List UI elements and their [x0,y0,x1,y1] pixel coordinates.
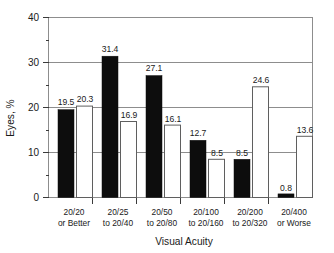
xtick-label-6-line2: or Worse [277,218,311,228]
bar-open-3 [165,125,181,197]
xtick-label-1-line1: 20/20 [64,207,85,217]
xtick-label-5-line1: 20/200 [237,207,263,217]
bar-value-filled-1: 19.5 [58,97,75,107]
bar-open-6 [297,136,313,197]
bar-group-6: 0.8 13.6 20/400 or Worse [277,125,313,228]
ytick-label-40: 40 [28,12,40,23]
x-axis-ticks [93,198,269,204]
xtick-label-4-line2: to 20/160 [189,218,224,228]
y-axis-title: Eyes, % [5,99,16,136]
bar-open-4 [209,159,225,197]
y-axis: 40 30 20 10 0 [28,12,49,203]
bar-value-filled-3: 27.1 [146,63,163,73]
bar-open-5 [253,87,269,198]
bar-chart: 40 30 20 10 0 Eyes, % 19.5 20.3 20/20 or… [0,0,334,253]
chart-svg: 40 30 20 10 0 Eyes, % 19.5 20.3 20/20 or… [0,0,334,253]
xtick-label-2-line2: to 20/40 [103,218,134,228]
bar-group-5: 8.5 24.6 20/200 to 20/320 [233,75,270,228]
ytick-label-20: 20 [28,102,40,113]
bar-value-filled-2: 31.4 [102,44,119,54]
bar-filled-1 [58,110,74,198]
xtick-label-3-line2: to 20/80 [147,218,178,228]
xtick-label-2-line1: 20/25 [108,207,129,217]
xtick-label-5-line2: to 20/320 [233,218,268,228]
bar-filled-5 [234,159,250,197]
bar-value-open-5: 24.6 [253,75,270,85]
bar-open-2 [121,122,137,198]
bar-value-open-2: 16.9 [121,110,138,120]
xtick-label-1-line2: or Better [58,218,90,228]
bar-value-open-4: 8.5 [211,148,223,158]
bar-value-open-3: 16.1 [165,114,182,124]
bar-value-filled-4: 12.7 [190,128,207,138]
bar-group-1: 19.5 20.3 20/20 or Better [58,94,94,228]
bar-value-filled-6: 0.8 [280,183,292,193]
bar-group-2: 31.4 16.9 20/25 to 20/40 [102,44,138,229]
ytick-label-30: 30 [28,57,40,68]
ytick-label-10: 10 [28,147,40,158]
xtick-label-6-line1: 20/400 [281,207,307,217]
bar-filled-3 [146,76,162,198]
bar-group-3: 27.1 16.1 20/50 to 20/80 [146,63,182,228]
bar-value-open-6: 13.6 [297,125,314,135]
xtick-label-3-line1: 20/50 [152,207,173,217]
bar-filled-2 [102,56,118,197]
bar-filled-6 [278,194,294,198]
bar-value-open-1: 20.3 [77,94,94,104]
ytick-label-0: 0 [33,192,39,203]
x-axis-title: Visual Acuity [155,236,213,247]
xtick-label-4-line1: 20/100 [193,207,219,217]
bar-open-1 [77,106,93,197]
bar-filled-4 [190,140,206,197]
bar-group-4: 12.7 8.5 20/100 to 20/160 [189,128,225,228]
bar-value-filled-5: 8.5 [236,148,248,158]
